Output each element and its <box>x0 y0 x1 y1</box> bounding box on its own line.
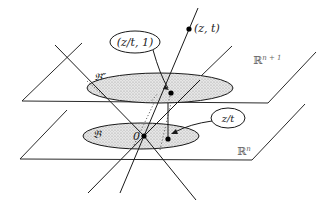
cone-lines <box>55 45 200 200</box>
lower-plane-left-edge <box>20 110 67 159</box>
label-projected-upper: (z/t, 1) <box>117 36 154 49</box>
label-projected-lower: z/t <box>221 113 236 124</box>
upper-plane-back-right-edge <box>200 46 232 77</box>
projected-lower-point <box>165 136 170 141</box>
label-upper-plane: ℝn + 1 <box>253 54 281 67</box>
label-origin: 0 <box>133 130 140 143</box>
projected-upper-point <box>168 90 173 95</box>
label-lower-plane: ℝn <box>237 145 251 158</box>
zt-point <box>186 26 191 31</box>
upper-plane-left-edge <box>22 43 82 101</box>
cone-projection-diagram: (z/t, 1) z/t (z, t) 0 𝔅″ 𝔅 ℝn + 1 ℝn <box>0 0 325 202</box>
label-zt: (z, t) <box>194 22 220 35</box>
lower-plane-right-edge <box>252 104 305 160</box>
origin-point <box>141 133 146 138</box>
label-lower-ball: 𝔅 <box>93 128 102 141</box>
lower-plane-front-edge <box>20 159 252 160</box>
label-upper-ball: 𝔅″ <box>94 71 107 84</box>
